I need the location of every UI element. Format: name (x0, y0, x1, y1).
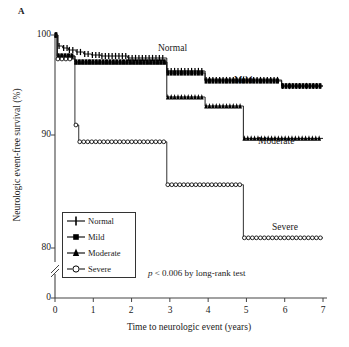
open-circle-marker (190, 183, 194, 187)
filled-square-marker (315, 83, 318, 88)
open-circle-marker (238, 183, 242, 187)
open-circle-marker (250, 236, 254, 240)
open-circle-marker (186, 183, 190, 187)
step-line (55, 35, 323, 238)
filled-square-marker (308, 83, 311, 88)
filled-square-marker (266, 78, 269, 83)
filled-square-marker (193, 70, 196, 75)
open-circle-marker (142, 140, 146, 144)
open-circle-marker (290, 236, 294, 240)
open-circle-marker (150, 140, 154, 144)
open-circle-marker (174, 183, 178, 187)
open-circle-marker (210, 183, 214, 187)
filled-square-marker (302, 83, 305, 88)
open-circle-marker (274, 236, 278, 240)
filled-square-marker (312, 83, 315, 88)
filled-square-marker (218, 78, 221, 83)
open-circle-marker (318, 236, 322, 240)
open-circle-marker (74, 123, 78, 127)
series-mild (55, 32, 324, 88)
open-circle-marker (202, 183, 206, 187)
open-circle-marker (162, 140, 166, 144)
open-circle-marker (114, 140, 118, 144)
filled-square-marker (273, 78, 276, 83)
open-circle-marker (194, 183, 198, 187)
filled-square-marker (225, 78, 228, 83)
open-circle-marker (182, 183, 186, 187)
filled-square-marker (298, 83, 301, 88)
axis-break-mark (51, 265, 59, 273)
filled-square-marker (211, 78, 214, 83)
open-circle-marker (230, 183, 234, 187)
filled-square-marker (319, 83, 322, 88)
open-circle-marker (86, 140, 90, 144)
open-circle-marker (234, 183, 238, 187)
filled-square-marker (176, 70, 179, 75)
open-circle-marker (154, 140, 158, 144)
open-circle-marker (122, 140, 126, 144)
kaplan-meier-figure: A Neurologic event-free survival (%) Tim… (0, 0, 349, 347)
filled-square-marker (245, 78, 248, 83)
open-circle-marker (226, 183, 230, 187)
filled-square-marker (235, 78, 238, 83)
filled-square-marker (249, 78, 252, 83)
open-circle-marker (146, 140, 150, 144)
open-circle-marker (206, 183, 210, 187)
open-circle-marker (294, 236, 298, 240)
filled-square-marker (180, 70, 183, 75)
filled-square-marker (228, 78, 231, 83)
filled-square-marker (183, 70, 186, 75)
filled-square-marker (208, 78, 211, 83)
open-circle-marker (110, 140, 114, 144)
open-circle-marker (68, 57, 72, 61)
open-circle-marker (214, 183, 218, 187)
open-circle-marker (90, 140, 94, 144)
open-circle-marker (198, 183, 202, 187)
filled-square-marker (262, 78, 265, 83)
open-circle-marker (60, 57, 64, 61)
open-circle-marker (258, 236, 262, 240)
open-circle-marker (166, 183, 170, 187)
open-circle-marker (218, 183, 222, 187)
filled-square-marker (170, 70, 173, 75)
plot-area (0, 0, 349, 347)
open-circle-marker (306, 236, 310, 240)
filled-square-marker (305, 83, 308, 88)
filled-square-marker (291, 83, 294, 88)
open-circle-marker (98, 140, 102, 144)
filled-square-marker (232, 78, 235, 83)
filled-square-marker (205, 78, 208, 83)
open-circle-marker (158, 140, 162, 144)
filled-square-marker (222, 78, 225, 83)
open-circle-marker (82, 140, 86, 144)
filled-square-marker (288, 83, 291, 88)
open-circle-marker (262, 236, 266, 240)
filled-square-marker (276, 78, 279, 83)
series-severe (55, 35, 323, 240)
open-circle-marker (222, 183, 226, 187)
open-circle-marker (278, 236, 282, 240)
open-circle-marker (298, 236, 302, 240)
open-circle-marker (178, 183, 182, 187)
filled-square-marker (173, 70, 176, 75)
open-circle-marker (302, 236, 306, 240)
open-circle-marker (286, 236, 290, 240)
open-circle-marker (94, 140, 98, 144)
open-circle-marker (130, 140, 134, 144)
filled-square-marker (215, 78, 218, 83)
filled-square-marker (256, 78, 259, 83)
open-circle-marker (56, 57, 60, 61)
curves-group (54, 32, 323, 240)
open-circle-marker (106, 140, 110, 144)
filled-square-marker (200, 70, 203, 75)
open-circle-marker (170, 183, 174, 187)
filled-square-marker (259, 78, 262, 83)
open-circle-marker (310, 236, 314, 240)
open-circle-marker (134, 140, 138, 144)
open-circle-marker (242, 236, 246, 240)
open-circle-marker (102, 140, 106, 144)
open-circle-marker (282, 236, 286, 240)
filled-square-marker (239, 78, 242, 83)
open-circle-marker (78, 140, 82, 144)
open-circle-marker (314, 236, 318, 240)
